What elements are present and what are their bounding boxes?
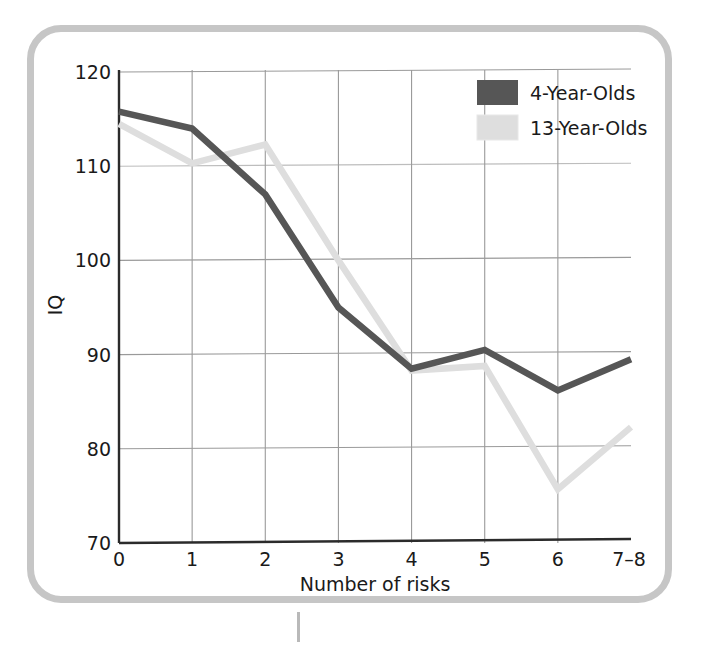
x-tick-label: 5	[479, 548, 491, 570]
x-axis-tick-labels: 01234567–8	[113, 548, 646, 570]
gridline-horizontal	[119, 352, 631, 355]
y-axis-tick-labels: 708090100110120	[75, 61, 111, 554]
x-tick-label: 6	[552, 548, 564, 570]
x-tick-label: 0	[113, 548, 125, 570]
x-axis-line	[119, 539, 631, 543]
series-line-4-year-olds	[119, 112, 631, 391]
x-tick-label: 4	[406, 548, 418, 570]
gridline-horizontal	[119, 257, 631, 260]
legend-swatch-4-year-olds	[477, 80, 518, 105]
y-tick-label: 90	[87, 344, 111, 366]
y-tick-label: 120	[75, 61, 111, 83]
series-line-13-year-olds	[119, 124, 631, 490]
x-tick-label: 7–8	[612, 548, 646, 570]
y-tick-label: 70	[87, 532, 111, 554]
y-tick-label: 110	[75, 155, 111, 177]
line-chart-svg: 708090100110120 01234567–8 IQ Number of …	[0, 0, 720, 651]
y-tick-label: 100	[75, 249, 111, 271]
gridline-horizontal	[119, 446, 631, 449]
y-axis-title: IQ	[44, 295, 66, 316]
vertical-gridlines	[192, 70, 558, 543]
legend-label-13-year-olds: 13-Year-Olds	[530, 117, 647, 139]
data-series-layer	[119, 112, 631, 490]
x-tick-label: 3	[332, 548, 344, 570]
gridline-horizontal	[119, 69, 631, 72]
x-axis-title: Number of risks	[300, 573, 451, 595]
x-tick-label: 1	[186, 548, 198, 570]
chart-legend: 4-Year-Olds 13-Year-Olds	[477, 80, 647, 140]
y-tick-label: 80	[87, 438, 111, 460]
legend-swatch-13-year-olds	[477, 115, 518, 140]
x-tick-label: 2	[259, 548, 271, 570]
chart-plot-area: 708090100110120 01234567–8 IQ Number of …	[0, 0, 720, 651]
legend-label-4-year-olds: 4-Year-Olds	[530, 82, 635, 104]
figure-root: 708090100110120 01234567–8 IQ Number of …	[0, 0, 720, 651]
